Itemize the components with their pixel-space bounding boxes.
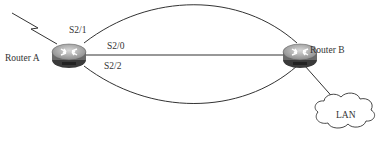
router-b-label: Router B <box>310 45 345 55</box>
link-s2-1-arc <box>84 5 297 43</box>
link-s2-2-arc <box>84 66 297 104</box>
router-a-icon[interactable] <box>52 44 86 68</box>
lightning-icon <box>12 13 57 44</box>
topology-canvas <box>0 0 392 152</box>
interface-s2-2-label: S2/2 <box>104 61 121 71</box>
interface-s2-0-label: S2/0 <box>107 41 124 51</box>
lan-label: LAN <box>336 110 356 120</box>
interface-s2-1-label: S2/1 <box>69 25 86 35</box>
router-a-label: Router A <box>5 53 40 63</box>
